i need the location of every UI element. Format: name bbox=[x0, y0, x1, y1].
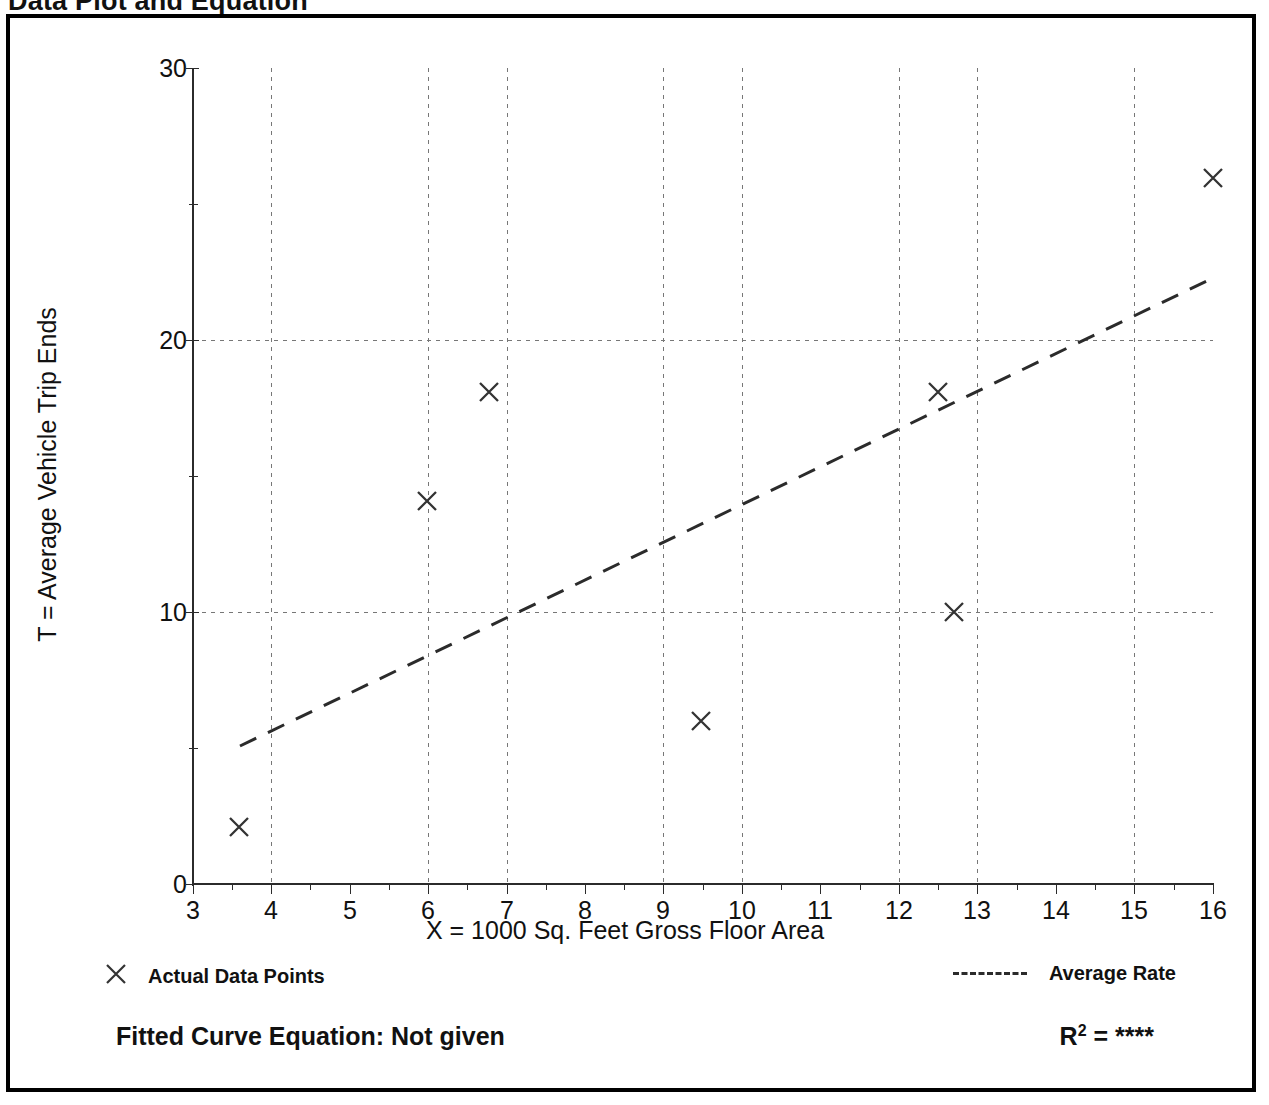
x-marker-icon bbox=[104, 962, 128, 990]
y-axis-title: T = Average Vehicle Trip Ends bbox=[33, 265, 62, 685]
r-squared: R2 = **** bbox=[1060, 1022, 1154, 1051]
legend-label-average-rate: Average Rate bbox=[1049, 962, 1176, 985]
fitted-curve-equation: Fitted Curve Equation: Not given bbox=[116, 1022, 505, 1051]
r-squared-equals: = bbox=[1087, 1022, 1116, 1050]
dashed-line-icon bbox=[953, 972, 1027, 975]
r-squared-exponent: 2 bbox=[1078, 1022, 1087, 1039]
chart-page: Data Plot and Equation bbox=[0, 0, 1269, 1105]
legend-item-actual-data-points: Actual Data Points bbox=[104, 962, 325, 990]
r-squared-value: **** bbox=[1115, 1022, 1154, 1050]
legend-item-average-rate: Average Rate bbox=[953, 962, 1176, 985]
x-axis-title: X = 1000 Sq. Feet Gross Floor Area bbox=[0, 916, 1250, 945]
r-squared-symbol: R bbox=[1060, 1022, 1078, 1050]
chart-legend: Actual Data Points Average Rate bbox=[0, 962, 1250, 1006]
legend-label-actual-data-points: Actual Data Points bbox=[148, 965, 325, 988]
chart-footer: Fitted Curve Equation: Not given R2 = **… bbox=[0, 1022, 1250, 1070]
